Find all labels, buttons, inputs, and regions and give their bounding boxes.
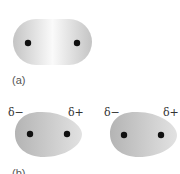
nucleus-right <box>74 40 80 46</box>
dipole-diagram: (a) δ− δ+ δ− δ+ (b) <box>0 0 180 174</box>
panel-a-label: (a) <box>12 74 25 86</box>
nucleus-right <box>64 131 70 137</box>
panel-b-molecule-1: δ− δ+ <box>8 106 84 157</box>
partial-negative-charge: δ− <box>104 106 120 119</box>
partial-positive-charge: δ+ <box>68 106 84 119</box>
partial-negative-charge: δ− <box>8 106 24 119</box>
partial-positive-charge: δ+ <box>163 106 179 119</box>
nucleus-left <box>121 132 127 138</box>
nucleus-left <box>25 40 31 46</box>
panel-a: (a) <box>12 19 92 86</box>
panel-b-label: (b) <box>12 167 25 174</box>
panel-b-molecule-2: δ− δ+ <box>104 106 179 157</box>
nucleus-left <box>27 131 33 137</box>
electron-cloud-symmetric <box>13 19 92 65</box>
nucleus-right <box>158 132 164 138</box>
